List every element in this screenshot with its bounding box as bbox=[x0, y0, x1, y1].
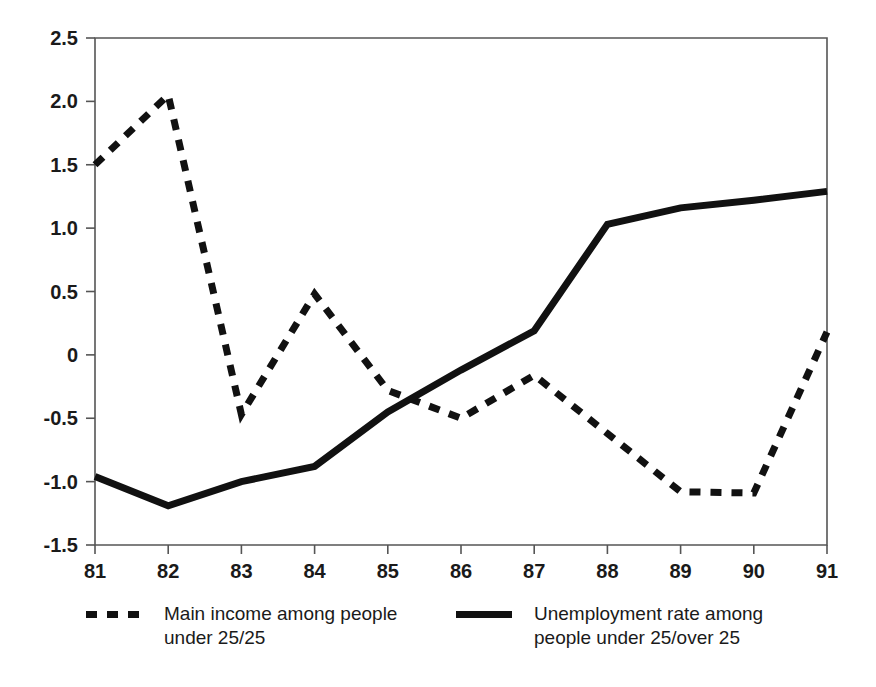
data-series-group bbox=[95, 95, 827, 506]
x-tick-label: 85 bbox=[377, 560, 399, 582]
y-tick-label: -1.0 bbox=[44, 471, 78, 493]
series-line-unemployment-rate bbox=[95, 191, 827, 505]
plot-border bbox=[95, 38, 827, 545]
y-tick-label: 1.5 bbox=[50, 154, 78, 176]
chart-figure: 2.52.01.51.00.50-0.5-1.0-1.5 81828384858… bbox=[0, 0, 876, 687]
axis-ticks bbox=[86, 38, 827, 554]
legend-label-line1: Unemployment rate among bbox=[534, 603, 763, 624]
legend-label-line1: Main income among people bbox=[164, 603, 397, 624]
x-tick-label: 81 bbox=[84, 560, 106, 582]
y-tick-label: 0.5 bbox=[50, 281, 78, 303]
solid-line-swatch-icon bbox=[456, 602, 512, 624]
y-tick-label: 0 bbox=[67, 344, 78, 366]
legend-label-unemployment-rate: Unemployment rate among people under 25/… bbox=[534, 602, 763, 651]
y-tick-label: -1.5 bbox=[44, 534, 78, 556]
y-tick-label: 2.5 bbox=[50, 27, 78, 49]
legend-item-unemployment-rate: Unemployment rate among people under 25/… bbox=[456, 602, 836, 651]
line-chart-plot: 2.52.01.51.00.50-0.5-1.0-1.5 81828384858… bbox=[0, 0, 876, 687]
dashed-line-swatch-icon bbox=[86, 602, 142, 624]
plot-frame bbox=[95, 38, 827, 545]
y-tick-label: 1.0 bbox=[50, 217, 78, 239]
chart-legend: Main income among people under 25/25 Une… bbox=[86, 602, 846, 651]
x-tick-label: 91 bbox=[816, 560, 838, 582]
x-tick-label: 90 bbox=[743, 560, 765, 582]
legend-label-line2: people under 25/over 25 bbox=[534, 627, 740, 648]
y-tick-label: -0.5 bbox=[44, 407, 78, 429]
series-line-main-income bbox=[95, 95, 827, 493]
legend-label-line2: under 25/25 bbox=[164, 627, 265, 648]
x-tick-label: 88 bbox=[596, 560, 618, 582]
legend-item-main-income: Main income among people under 25/25 bbox=[86, 602, 456, 651]
x-axis-tick-labels: 8182838485868788899091 bbox=[84, 560, 838, 582]
x-tick-label: 87 bbox=[523, 560, 545, 582]
x-tick-label: 84 bbox=[303, 560, 326, 582]
y-tick-label: 2.0 bbox=[50, 90, 78, 112]
legend-label-main-income: Main income among people under 25/25 bbox=[164, 602, 397, 651]
x-tick-label: 86 bbox=[450, 560, 472, 582]
x-tick-label: 82 bbox=[157, 560, 179, 582]
y-axis-tick-labels: 2.52.01.51.00.50-0.5-1.0-1.5 bbox=[44, 27, 78, 556]
x-tick-label: 83 bbox=[230, 560, 252, 582]
x-tick-label: 89 bbox=[669, 560, 691, 582]
